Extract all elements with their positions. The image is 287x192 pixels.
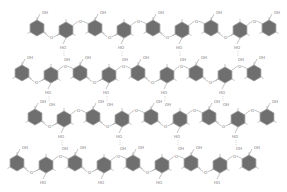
side-chain-bond [235,127,238,133]
substituent-bond [141,121,144,123]
hydroxyl-label: OH [216,10,222,15]
ring-hexagon [260,109,274,125]
ring-hexagon [202,109,216,125]
glycosidic-bond [202,77,209,82]
bridge-oxygen-label: O [238,64,241,69]
substituent-bond [12,77,15,79]
glycosidic-bond [139,110,146,113]
glycosidic-bond [186,110,193,115]
glycosidic-bond [257,21,264,24]
substituent-bond [239,167,242,169]
glycosidic-bond [188,21,195,26]
glycosidic-bond [110,156,117,161]
bridge-oxygen-label: O [106,124,109,129]
ring-hexagon [44,67,58,83]
ring-hexagon [59,22,73,38]
substituent-bond [71,123,74,125]
hydroxyl-label: OH [42,10,48,15]
hydroxyl-label: OH [214,99,220,104]
hydroxyl-label: OH [238,57,244,62]
bridge-oxygen-label: O [137,19,140,24]
glycosidic-bond [246,21,253,26]
ring-hexagon [231,111,245,127]
substituent-bond [274,121,277,123]
hydroxyl-label: HO [116,134,122,139]
substituent-bond [169,169,172,171]
bridge-oxygen-label: O [204,170,207,175]
ring-hexagon [68,155,82,171]
substituent-bond [245,123,248,125]
hydroxyl-label: OH [98,99,104,104]
glycosidic-bond [99,121,106,126]
ring-hexagon [204,20,218,36]
hydroxyl-label: HO [219,90,225,95]
hydroxyl-label: HO [161,90,167,95]
hydroxyl-label: HO [118,45,124,50]
hydroxyl-label: HO [174,134,180,139]
hydroxyl-label: OH [40,99,46,104]
bridge-oxygen-label: O [166,35,169,40]
hydroxyl-label: HO [45,90,51,95]
substituent-bond [58,79,61,81]
side-chain-bond [37,14,40,20]
bridge-oxygen-label: O [48,124,51,129]
polymer-structure-diagram: OOHOHOOHOOHOHOOHOOHOHOOHOOHOHOOHOHOOHOHO… [0,0,287,192]
glycosidic-bond [197,167,204,172]
hydroxyl-label: OH [223,102,229,107]
ring-hexagon [160,67,174,83]
side-chain-bond [61,127,64,133]
substituent-bond [261,77,264,79]
bridge-oxygen-label: O [253,19,256,24]
side-chain-bond [48,83,51,89]
glycosidic-bond [244,110,251,115]
hydroxyl-label: OH [100,10,106,15]
hydroxyl-label: HO [156,180,162,185]
ring-hexagon [262,20,276,36]
substituent-bond [199,121,202,123]
hydroxyl-label: OH [178,146,184,151]
side-chain-bond [133,149,136,155]
substituent-bond [201,32,204,34]
bridge-oxygen-label: O [193,108,196,113]
hydroxyl-label: OH [156,99,162,104]
side-chain-bond [196,59,199,65]
hydroxyl-label: OH [165,102,171,107]
glycosidic-bond [72,21,79,26]
bridge-oxygen-label: O [164,124,167,129]
bridge-oxygen-label: O [88,170,91,175]
substituent-bond [111,169,114,171]
ring-hexagon [189,65,203,81]
hydroxyl-label: OH [274,10,280,15]
ring-hexagon [115,111,129,127]
substituent-bond [227,169,230,171]
ring-hexagon [15,65,29,81]
ring-hexagon [117,22,131,38]
glycosidic-bond [41,121,48,126]
side-chain-bond [209,103,212,109]
glycosidic-bond [126,66,133,69]
bridge-oxygen-label: O [122,64,125,69]
bridge-oxygen-label: O [224,35,227,40]
bridge-oxygen-label: O [30,170,33,175]
glycosidic-bond [159,32,166,37]
side-chain-bond [95,14,98,20]
side-chain-bond [43,173,46,179]
bridge-oxygen-label: O [222,124,225,129]
side-chain-bond [191,149,194,155]
glycosidic-bond [197,110,204,113]
hydroxyl-label: HO [58,134,64,139]
hydroxyl-label: OH [259,55,265,60]
ring-hexagon [28,109,42,125]
ring-hexagon [73,65,87,81]
bridge-oxygen-label: O [79,19,82,24]
substituent-bond [70,77,73,79]
hydroxyl-label: OH [122,57,128,62]
side-chain-bond [121,38,124,44]
glycosidic-bond [57,66,64,71]
ring-hexagon [86,109,100,125]
glycosidic-bond [101,32,108,37]
hydroxyl-label: OH [62,146,68,151]
glycosidic-bond [237,156,244,159]
substituent-bond [244,77,247,79]
hydroxyl-label: OH [180,57,186,62]
